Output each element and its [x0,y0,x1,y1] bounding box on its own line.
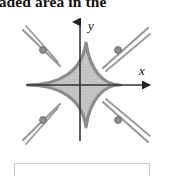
astroid-figure: x y [0,10,169,146]
y-axis-label: y [86,18,94,33]
point-upper-right [115,47,122,54]
point-upper-left [40,47,47,54]
tangent-upper-right [103,28,148,68]
point-lower-right [115,117,122,124]
answer-input-box[interactable] [14,163,150,176]
point-lower-left [40,117,47,124]
tangent-lower-right-2 [106,99,150,136]
tangent-lower-left-2 [26,108,58,144]
x-axis-label: x [138,63,145,78]
tangent-upper-left-2 [26,26,58,62]
tangent-lower-right [103,102,148,142]
figure-page: haded area in the [0,0,169,176]
